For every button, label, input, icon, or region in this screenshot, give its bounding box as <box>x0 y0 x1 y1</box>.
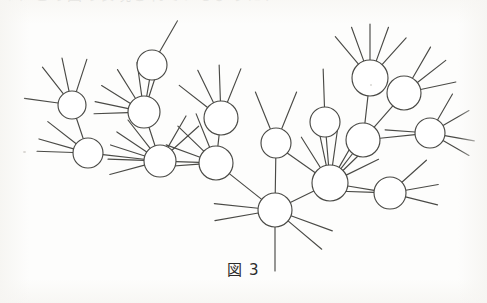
node-mid-hub <box>199 146 233 180</box>
graph-stub <box>108 159 144 160</box>
node-right-hub <box>312 165 348 201</box>
graph-stub <box>94 113 128 114</box>
node-layer <box>58 50 445 227</box>
graph-stub <box>301 137 320 168</box>
graph-edge <box>149 127 155 146</box>
graph-stub <box>335 37 358 65</box>
graph-stub <box>385 130 415 132</box>
node-mid-upper <box>204 101 238 135</box>
figure-caption: 図 3 <box>0 258 487 279</box>
graph-stub <box>445 136 475 141</box>
graph-edge <box>176 162 199 163</box>
graph-edge <box>103 155 144 160</box>
graph-stub <box>198 70 214 102</box>
graph-stub <box>178 126 204 151</box>
graph-stub <box>282 92 297 129</box>
graph-stub <box>102 86 131 104</box>
graph-edge <box>374 106 393 127</box>
graph-stub <box>110 165 145 174</box>
graph-edge <box>76 118 83 138</box>
graph-edge <box>147 80 150 96</box>
graph-stub <box>76 59 87 91</box>
graph-stub <box>37 151 73 152</box>
graph-stub <box>39 139 74 149</box>
graph-stub <box>215 213 258 221</box>
scanned-page: ）、この図の表現されているように、 図 3 <box>0 0 487 303</box>
graph-stub <box>413 47 431 78</box>
node-left-lower <box>73 138 103 168</box>
graph-stub <box>438 94 453 120</box>
graph-stub <box>406 184 439 190</box>
node-upper-leaf-a <box>137 50 167 80</box>
graph-edge <box>348 186 374 190</box>
node-top-right-b <box>387 76 421 110</box>
node-center-upper <box>261 128 291 158</box>
graph-edge <box>275 158 276 193</box>
scan-speck <box>370 84 372 86</box>
graph-stub <box>323 69 324 107</box>
node-center-hub <box>258 193 292 227</box>
graph-stub <box>286 152 315 173</box>
graph-stub <box>406 197 438 205</box>
graph-stub <box>346 159 378 175</box>
scan-speck <box>23 151 26 153</box>
node-far-right <box>415 118 445 148</box>
node-left-upper <box>58 91 86 119</box>
graph-stub <box>417 60 445 82</box>
graph-stub <box>118 70 136 99</box>
node-right-mid <box>346 123 380 157</box>
graph-stub <box>352 27 364 61</box>
graph-stub <box>376 27 388 61</box>
node-mid-left-upper <box>128 96 160 128</box>
graph-stub <box>95 102 128 109</box>
graph-stub <box>443 111 469 126</box>
node-right-lower <box>374 177 406 209</box>
graph-edge <box>326 137 328 165</box>
graph-edge <box>290 191 314 203</box>
graph-stub <box>421 82 456 89</box>
graph-stub <box>172 126 199 150</box>
graph-stub <box>42 67 63 94</box>
graph-stub <box>179 85 207 107</box>
graph-stub <box>160 21 178 52</box>
graph-stub <box>402 160 427 182</box>
graph-stub <box>214 204 258 209</box>
graph-stub <box>255 92 270 129</box>
graph-stub <box>219 65 220 101</box>
graph-edge <box>365 96 368 123</box>
node-mid-left-hub <box>144 145 176 177</box>
graph-stub <box>227 69 240 102</box>
graph-edge <box>218 135 219 146</box>
graph-stub <box>48 122 76 144</box>
graph-edge <box>229 174 261 200</box>
graph-edge <box>380 135 415 139</box>
graph-stub <box>443 141 469 156</box>
graph-stub <box>382 38 406 65</box>
node-top-right-star <box>352 60 388 96</box>
node-right-upper-leaf <box>310 107 340 137</box>
graph-stub <box>24 98 58 103</box>
graph-stub <box>62 58 69 91</box>
